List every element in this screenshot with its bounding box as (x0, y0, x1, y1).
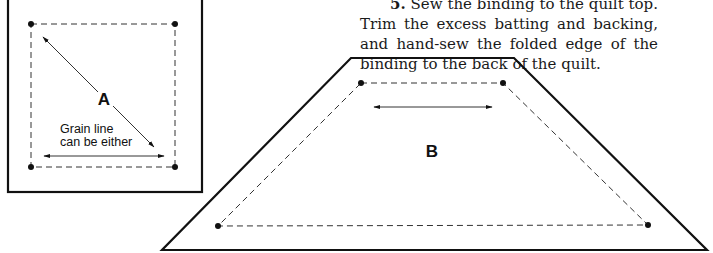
corner-dot (500, 80, 506, 86)
template-b-label: B (426, 142, 438, 161)
corner-dot (172, 21, 178, 27)
grain-note-line2: can be either (60, 135, 132, 149)
diagonal-grain-arrow (43, 37, 98, 92)
corner-dot (28, 21, 34, 27)
template-a: A Grain line can be either (8, 0, 202, 192)
grain-note-line1: Grain line (60, 122, 114, 136)
corner-dot (172, 164, 178, 170)
corner-dot (358, 80, 364, 86)
quilt-template-diagram: A Grain line can be either B (0, 0, 713, 253)
template-a-label: A (98, 90, 110, 109)
template-b: B (162, 58, 707, 250)
corner-dot (215, 223, 221, 229)
corner-dot (645, 222, 651, 228)
corner-dot (28, 164, 34, 170)
